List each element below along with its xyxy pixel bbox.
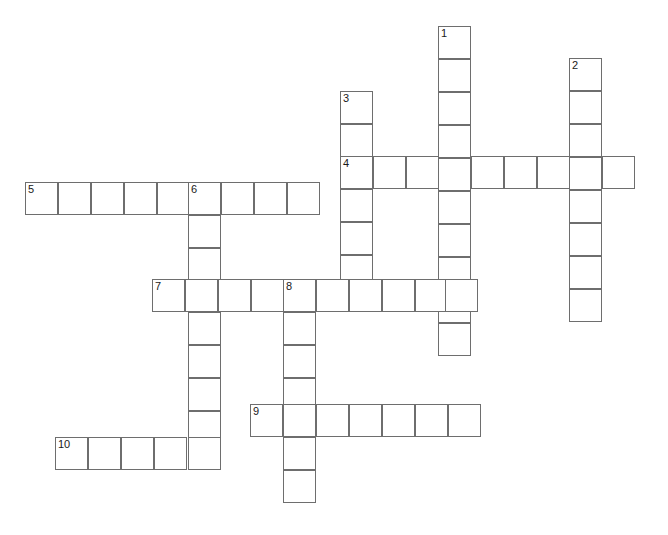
crossword-cell[interactable] (471, 156, 504, 189)
crossword-cell-numbered[interactable]: 4 (340, 156, 373, 189)
crossword-cell[interactable] (283, 437, 316, 470)
crossword-cell[interactable] (438, 59, 471, 92)
crossword-cell-numbered[interactable]: 7 (152, 279, 185, 312)
crossword-clue-number: 10 (58, 438, 70, 451)
crossword-cell[interactable] (221, 182, 254, 215)
crossword-cell[interactable] (188, 215, 221, 248)
crossword-cell[interactable] (438, 158, 471, 191)
crossword-cell[interactable] (188, 345, 221, 378)
crossword-cell[interactable] (340, 124, 373, 157)
crossword-cell[interactable] (569, 124, 602, 157)
crossword-cell[interactable] (438, 191, 471, 224)
crossword-cell[interactable] (251, 279, 284, 312)
crossword-cell[interactable] (382, 279, 415, 312)
crossword-cell-numbered[interactable]: 5 (25, 182, 58, 215)
crossword-cell[interactable] (121, 437, 154, 470)
crossword-cell[interactable] (415, 279, 448, 312)
crossword-cell[interactable] (406, 156, 439, 189)
crossword-cell[interactable] (58, 182, 91, 215)
crossword-cell-numbered[interactable]: 10 (55, 437, 88, 470)
crossword-clue-number: 8 (286, 280, 292, 293)
crossword-cell[interactable] (349, 404, 382, 437)
crossword-cell[interactable] (537, 156, 570, 189)
crossword-clue-number: 1 (441, 27, 447, 40)
crossword-cell[interactable] (382, 404, 415, 437)
crossword-grid: 12345678910 (0, 0, 668, 535)
crossword-clue-number: 9 (253, 405, 259, 418)
crossword-cell[interactable] (340, 189, 373, 222)
crossword-cell[interactable] (438, 125, 471, 158)
crossword-cell[interactable] (188, 248, 221, 281)
crossword-cell[interactable] (188, 312, 221, 345)
crossword-clue-number: 4 (343, 157, 349, 170)
crossword-cell[interactable] (316, 279, 349, 312)
crossword-cell[interactable] (569, 190, 602, 223)
crossword-cell-numbered[interactable]: 3 (340, 91, 373, 124)
crossword-cell[interactable] (218, 279, 251, 312)
crossword-cell[interactable] (154, 437, 187, 470)
crossword-cell[interactable] (188, 437, 221, 470)
crossword-cell[interactable] (602, 156, 635, 189)
crossword-cell[interactable] (569, 289, 602, 322)
crossword-cell[interactable] (287, 182, 320, 215)
crossword-cell[interactable] (438, 92, 471, 125)
crossword-cell[interactable] (373, 156, 406, 189)
crossword-cell[interactable] (185, 279, 218, 312)
crossword-cell[interactable] (283, 312, 316, 345)
crossword-clue-number: 2 (572, 59, 578, 72)
crossword-cell-numbered[interactable]: 2 (569, 58, 602, 91)
crossword-cell[interactable] (569, 223, 602, 256)
crossword-cell[interactable] (316, 404, 349, 437)
crossword-cell[interactable] (438, 224, 471, 257)
crossword-cell[interactable] (157, 182, 190, 215)
crossword-cell[interactable] (349, 279, 382, 312)
crossword-cell[interactable] (254, 182, 287, 215)
crossword-cell-numbered[interactable]: 1 (438, 26, 471, 59)
crossword-cell[interactable] (188, 378, 221, 411)
crossword-cell-numbered[interactable]: 8 (283, 279, 316, 312)
crossword-cell[interactable] (91, 182, 124, 215)
crossword-cell[interactable] (415, 404, 448, 437)
crossword-cell[interactable] (283, 470, 316, 503)
crossword-cell[interactable] (569, 157, 602, 190)
crossword-cell[interactable] (445, 279, 478, 312)
crossword-cell[interactable] (340, 222, 373, 255)
crossword-cell[interactable] (283, 345, 316, 378)
crossword-cell[interactable] (124, 182, 157, 215)
crossword-cell[interactable] (438, 323, 471, 356)
crossword-clue-number: 6 (191, 183, 197, 196)
crossword-cell[interactable] (448, 404, 481, 437)
crossword-cell[interactable] (88, 437, 121, 470)
crossword-cell[interactable] (569, 91, 602, 124)
crossword-cell-numbered[interactable]: 9 (250, 404, 283, 437)
crossword-cell[interactable] (569, 256, 602, 289)
crossword-cell[interactable] (283, 404, 316, 437)
crossword-clue-number: 7 (155, 280, 161, 293)
crossword-cell[interactable] (504, 156, 537, 189)
crossword-clue-number: 5 (28, 183, 34, 196)
crossword-clue-number: 3 (343, 92, 349, 105)
crossword-cell-numbered[interactable]: 6 (188, 182, 221, 215)
